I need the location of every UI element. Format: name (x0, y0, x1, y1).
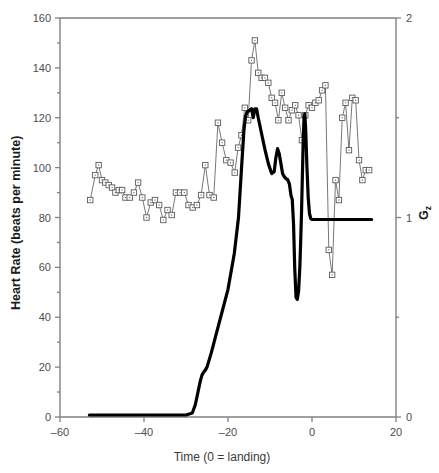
data-point-center (355, 100, 356, 101)
data-point-center (125, 197, 126, 198)
y2-tick-label: 2 (406, 12, 412, 24)
data-point-center (209, 195, 210, 196)
y-tick-label: 140 (33, 62, 51, 74)
y-tick-label: 80 (39, 212, 51, 224)
data-point-center (288, 120, 289, 121)
data-point-center (163, 219, 164, 220)
data-point-center (274, 102, 275, 103)
data-point-center (369, 170, 370, 171)
data-point-center (342, 117, 343, 118)
data-point-center (248, 120, 249, 121)
data-point-center (241, 135, 242, 136)
heart-rate-series-markers (88, 38, 372, 278)
x-tick-label: –20 (219, 426, 237, 438)
data-point-center (230, 162, 231, 163)
y-tick-label: 100 (33, 162, 51, 174)
data-point-center (150, 202, 151, 203)
data-point-center (175, 192, 176, 193)
data-point-center (238, 147, 239, 148)
data-point-center (345, 102, 346, 103)
data-point-center (268, 82, 269, 83)
data-point-center (142, 197, 143, 198)
data-point-center (196, 204, 197, 205)
data-point-center (159, 204, 160, 205)
data-point-center (264, 77, 265, 78)
y2-tick-label: 1 (406, 212, 412, 224)
data-point-center (291, 110, 292, 111)
data-point-center (234, 172, 235, 173)
y-axis-ticks-right (396, 18, 401, 417)
x-axis-ticks (60, 417, 396, 422)
data-point-center (192, 207, 193, 208)
data-point-center (258, 72, 259, 73)
data-point-center (98, 165, 99, 166)
data-point-center (285, 107, 286, 108)
data-point-center (318, 100, 319, 101)
data-point-center (201, 195, 202, 196)
y2-tick-label: 0 (406, 411, 412, 423)
y-tick-label: 20 (39, 361, 51, 373)
data-point-center (254, 40, 255, 41)
y-tick-label: 0 (45, 411, 51, 423)
data-point-center (90, 199, 91, 200)
data-point-center (322, 90, 323, 91)
data-point-center (335, 180, 336, 181)
svg-text:Gz: Gz (417, 206, 433, 220)
data-point-center (146, 217, 147, 218)
y-axis-tick-labels-left: 020406080100120140160 (33, 12, 51, 423)
data-point-center (138, 182, 139, 183)
data-point-center (122, 190, 123, 191)
data-point-center (362, 180, 363, 181)
data-point-center (348, 150, 349, 151)
data-point-center (325, 85, 326, 86)
data-point-center (188, 204, 189, 205)
data-point-center (184, 192, 185, 193)
data-point-center (205, 165, 206, 166)
x-axis-title: Time (0 = landing) (174, 450, 271, 464)
data-point-center (281, 92, 282, 93)
data-point-center (213, 197, 214, 198)
figure-container: 020406080100120140160 012 –60–40–20020 H… (0, 0, 439, 473)
gz-series-line (89, 109, 371, 415)
y-axis-tick-labels-right: 012 (406, 12, 412, 423)
data-point-center (171, 214, 172, 215)
data-point-center (358, 160, 359, 161)
data-point-center (244, 107, 245, 108)
data-point-center (332, 274, 333, 275)
y2-axis-title: Gz (417, 206, 433, 220)
plot-frame (60, 18, 396, 417)
data-point-center (222, 142, 223, 143)
data-point-center (298, 115, 299, 116)
data-point-center (295, 105, 296, 106)
data-point-center (167, 209, 168, 210)
data-point-center (217, 122, 218, 123)
y-tick-label: 160 (33, 12, 51, 24)
y-tick-label: 120 (33, 112, 51, 124)
data-point-center (180, 192, 181, 193)
data-point-center (133, 192, 134, 193)
heart-rate-series-line (90, 40, 369, 274)
data-point-center (154, 199, 155, 200)
data-point-center (278, 120, 279, 121)
x-tick-label: –40 (135, 426, 153, 438)
data-point-center (95, 175, 96, 176)
x-tick-label: 0 (309, 426, 315, 438)
y-axis-title: Heart Rate (beats per minute) (9, 136, 23, 310)
x-tick-label: 20 (390, 426, 402, 438)
data-point-center (271, 97, 272, 98)
y-tick-label: 60 (39, 261, 51, 273)
data-point-center (112, 187, 113, 188)
data-point-center (251, 60, 252, 61)
data-point-center (328, 249, 329, 250)
data-point-center (129, 197, 130, 198)
x-axis-tick-labels: –60–40–20020 (51, 426, 402, 438)
y-axis-ticks-left (55, 18, 60, 417)
data-point-center (338, 199, 339, 200)
y-tick-label: 40 (39, 311, 51, 323)
data-point-center (311, 107, 312, 108)
x-tick-label: –60 (51, 426, 69, 438)
heart-rate-polyline (90, 40, 369, 274)
heart-rate-gz-chart: 020406080100120140160 012 –60–40–20020 H… (0, 0, 439, 473)
data-point-center (226, 160, 227, 161)
